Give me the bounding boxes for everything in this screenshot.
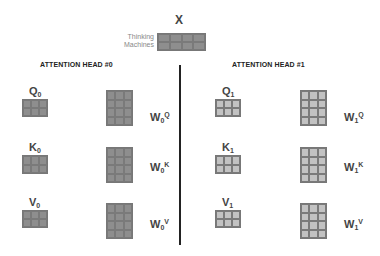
w1v-matrix: [300, 203, 327, 239]
q1-label: Q1: [222, 85, 234, 98]
input-x-label: X: [175, 13, 183, 27]
v1-matrix: [215, 210, 241, 228]
w1k-label: W1K: [344, 161, 363, 174]
w0v-label: W0V: [150, 218, 169, 231]
w0k-label: W0K: [150, 161, 169, 174]
w1q-label: W1Q: [344, 111, 364, 124]
w0k-matrix: [106, 147, 133, 183]
side-text-line2: Machines: [118, 41, 154, 49]
w1v-label: W1V: [344, 218, 363, 231]
v0-matrix: [22, 210, 48, 228]
w0q-matrix: [106, 90, 133, 126]
head-1-title: ATTENTION HEAD #1: [232, 61, 305, 68]
side-text-line1: Thinking: [118, 33, 154, 41]
w1q-matrix: [300, 90, 327, 126]
q1-matrix: [215, 99, 241, 117]
v0-label: V0: [29, 196, 40, 209]
w0v-matrix: [106, 203, 133, 239]
q0-label: Q0: [29, 85, 41, 98]
input-side-text: Thinking Machines: [118, 33, 154, 49]
head-divider: [179, 65, 181, 245]
w0q-label: W0Q: [150, 111, 170, 124]
input-x-matrix: [157, 33, 206, 51]
w1k-matrix: [300, 147, 327, 183]
k1-matrix: [215, 155, 241, 174]
head-0-title: ATTENTION HEAD #0: [40, 61, 113, 68]
v1-label: V1: [222, 196, 233, 209]
k0-matrix: [22, 155, 48, 174]
q0-matrix: [22, 99, 48, 117]
k1-label: K1: [222, 141, 234, 154]
k0-label: K0: [29, 141, 41, 154]
